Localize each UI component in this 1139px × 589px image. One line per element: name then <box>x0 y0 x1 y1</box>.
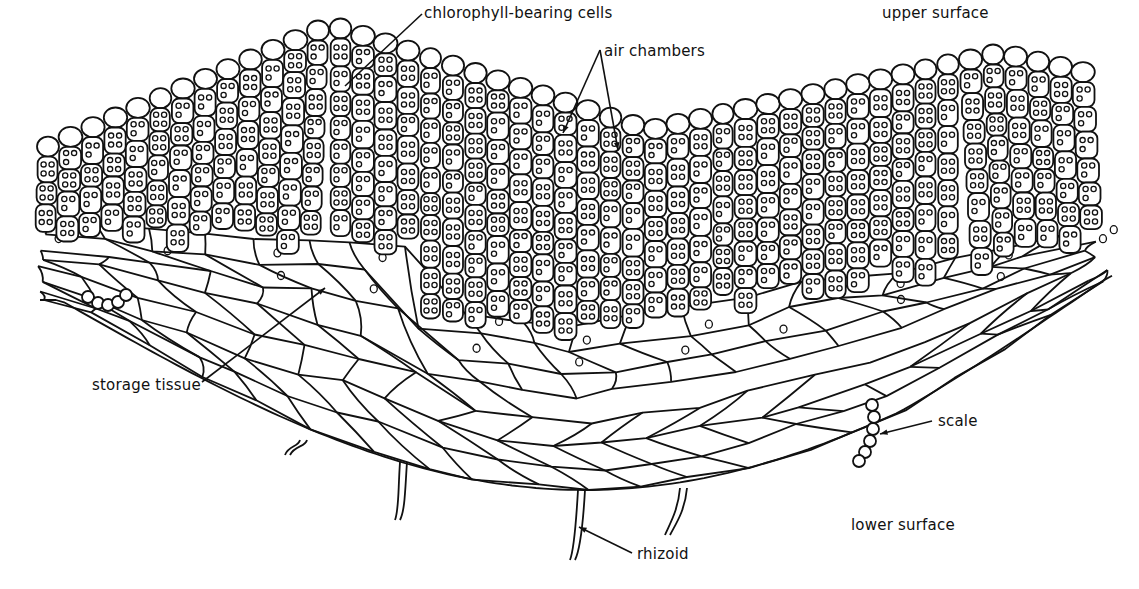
label-rhizoid: rhizoid <box>637 545 689 563</box>
thallus-diagram: chlorophyll-bearing cells air chambers u… <box>0 0 1139 589</box>
thallus-cross-section-drawing <box>0 0 1139 589</box>
chlorophyll-bearing-filaments <box>36 19 1102 341</box>
label-air-chambers: air chambers <box>604 42 705 60</box>
label-chlorophyll-bearing-cells: chlorophyll-bearing cells <box>424 4 612 22</box>
label-scale: scale <box>938 412 978 430</box>
label-storage-tissue: storage tissue <box>92 376 201 394</box>
label-upper-surface: upper surface <box>882 4 989 22</box>
rhizoids-and-scales <box>82 289 880 560</box>
label-lower-surface: lower surface <box>851 516 955 534</box>
